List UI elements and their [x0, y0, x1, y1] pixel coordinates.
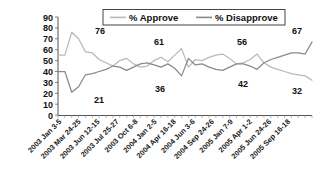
- legend-label-approve: % Approve: [129, 12, 178, 23]
- line-series-disapprove: [58, 42, 312, 92]
- y-tick-label: 20: [43, 89, 53, 99]
- y-tick-label: 50: [43, 56, 53, 66]
- chart-canvas: 90 80 70 60 50 40 30 20 10 0: [0, 0, 320, 188]
- data-label-36: 36: [155, 84, 165, 94]
- data-label-67: 67: [292, 26, 302, 36]
- data-label-42: 42: [238, 79, 248, 89]
- legend-label-disapprove: % Disapprove: [215, 12, 278, 23]
- y-tick-label: 70: [43, 34, 53, 44]
- data-label-76: 76: [95, 26, 105, 36]
- y-tick-label: 30: [43, 78, 53, 88]
- y-tick-label: 10: [43, 100, 53, 110]
- chart-legend[interactable]: % Approve % Disapprove: [103, 10, 285, 26]
- data-label-56: 56: [237, 37, 247, 47]
- y-tick-label: 90: [43, 13, 53, 23]
- y-tick-label: 80: [43, 23, 53, 33]
- y-tick-label: 60: [43, 45, 53, 55]
- y-axis-tick-labels: 90 80 70 60 50 40 30 20 10 0: [43, 13, 53, 121]
- series-lines: [58, 32, 312, 92]
- data-label-61: 61: [154, 37, 164, 47]
- data-point-labels: 76 21 61 36 56 42 67 32: [94, 26, 302, 105]
- y-tick-label: 40: [43, 67, 53, 77]
- y-tick-label: 0: [48, 111, 53, 121]
- data-label-21: 21: [94, 95, 104, 105]
- approval-rating-line-chart: 90 80 70 60 50 40 30 20 10 0: [0, 0, 320, 188]
- data-label-32: 32: [292, 86, 302, 96]
- x-axis-category-labels: 2003 Jan 3-52003 Mar 24-252003 Jun 12-15…: [26, 117, 292, 161]
